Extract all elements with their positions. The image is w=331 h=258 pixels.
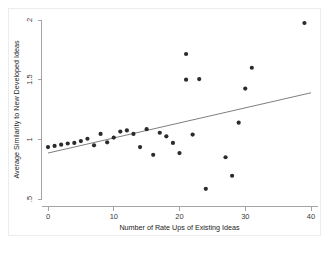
data-point (250, 66, 254, 70)
data-point (191, 132, 195, 136)
x-tick-label-20: 20 (175, 212, 183, 221)
data-point (118, 129, 122, 133)
data-point (92, 143, 96, 147)
data-point (112, 135, 116, 139)
fit-line (48, 93, 311, 153)
data-point (145, 127, 149, 131)
scatter-plot: 2 1.5 1 .5 0 10 20 30 40 Number of Rate … (0, 0, 331, 258)
data-point (99, 132, 103, 136)
data-point (105, 140, 109, 144)
x-tick-label-40: 40 (307, 212, 315, 221)
y-tick-label-1_5: 1.5 (25, 74, 34, 84)
x-tick-marks (48, 207, 311, 211)
figure-container: 2 1.5 1 .5 0 10 20 30 40 Number of Rate … (0, 0, 331, 258)
data-point (184, 78, 188, 82)
scatter-markers (46, 21, 307, 191)
data-point (125, 128, 129, 132)
y-tick-label-0_5: .5 (25, 196, 34, 202)
data-point (66, 141, 70, 145)
x-axis-title: Number of Rate Ups of Existing Ideas (119, 223, 240, 232)
data-point (230, 174, 234, 178)
data-point (184, 52, 188, 56)
data-point (171, 141, 175, 145)
data-point (204, 187, 208, 191)
data-point (59, 143, 63, 147)
data-point (223, 155, 227, 159)
data-point (237, 121, 241, 125)
y-tick-marks (38, 20, 42, 199)
x-tick-label-30: 30 (241, 212, 249, 221)
data-point (85, 137, 89, 141)
data-point (72, 141, 76, 145)
data-point (177, 151, 181, 155)
data-point (79, 139, 83, 143)
x-tick-label-0: 0 (46, 212, 50, 221)
data-point (131, 132, 135, 136)
data-point (197, 77, 201, 81)
data-point (46, 145, 50, 149)
data-point (164, 134, 168, 138)
y-axis-title: Average Similarity to New Developed Idea… (12, 40, 21, 179)
data-point (243, 87, 247, 91)
data-point (302, 21, 306, 25)
data-point (52, 144, 56, 148)
y-tick-label-2: 2 (25, 18, 34, 22)
data-point (151, 153, 155, 157)
y-tick-label-1: 1 (25, 137, 34, 141)
data-point (138, 145, 142, 149)
data-point (158, 131, 162, 135)
x-tick-label-10: 10 (110, 212, 118, 221)
